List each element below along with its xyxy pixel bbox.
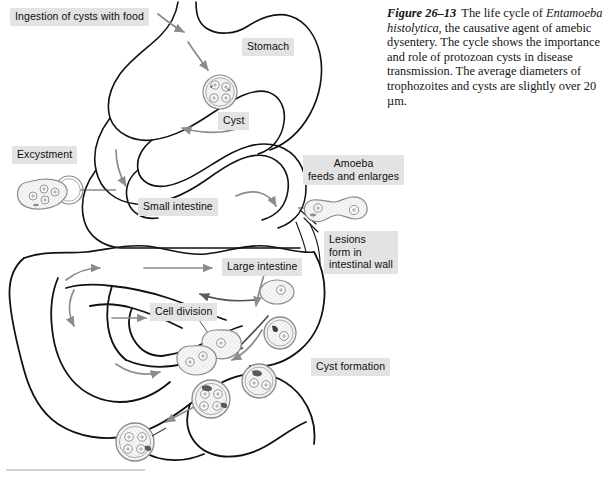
excysting-amoeba	[17, 176, 83, 209]
label-stomach: Stomach	[242, 38, 294, 56]
label-ingestion-of-cysts: Ingestion of cysts with food	[10, 8, 149, 26]
label-amoeba-feeds-and-enlarges: Amoeba feeds and enlarges	[303, 155, 404, 185]
label-large-intestine: Large intestine	[222, 258, 302, 276]
precyst	[260, 280, 294, 304]
mature-cyst-4n-b	[116, 423, 154, 461]
cyst-in-stomach	[203, 75, 237, 109]
label-cyst-formation: Cyst formation	[311, 358, 390, 376]
label-excystment: Excystment	[12, 146, 77, 164]
flow-arrows	[66, 14, 276, 422]
bottom-rule	[6, 469, 145, 471]
excretion-line	[152, 428, 166, 436]
caption-lead: The life cycle of	[461, 6, 546, 20]
label-cell-division: Cell division	[150, 303, 217, 321]
small-intestine-outline	[83, 118, 307, 248]
immature-cyst-2n	[242, 364, 276, 398]
dividing-trophozoite-lower	[177, 346, 216, 375]
label-cyst: Cyst	[218, 112, 249, 130]
figure-caption: Figure 26–13 The life cycle of Entamoeba…	[387, 6, 607, 108]
figure-number: Figure 26–13	[387, 6, 456, 20]
label-small-intestine: Small intestine	[138, 198, 218, 216]
trophozoite-pair	[304, 197, 367, 222]
mature-cyst-4n-a	[192, 380, 230, 418]
label-lesions-form-in-intestinal-wall: Lesions form in intestinal wall	[324, 231, 398, 274]
immature-cyst-1n	[264, 317, 296, 349]
figure-page: Ingestion of cysts with food Stomach Cys…	[0, 0, 612, 477]
